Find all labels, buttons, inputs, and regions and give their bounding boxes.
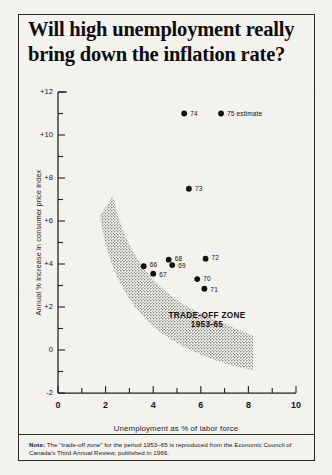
x-tick-label: 10 xyxy=(286,400,306,410)
paper-speck xyxy=(3,137,4,138)
note-text: The "trade-off zone" for the period 1953… xyxy=(29,441,292,456)
paper-speck xyxy=(9,340,10,341)
data-point-label: 75 estimate xyxy=(227,110,262,117)
title-line-1: Will high unemployment really xyxy=(28,18,294,40)
paper-speck xyxy=(0,134,1,135)
y-axis-title: Annual % increase in consumer price inde… xyxy=(34,143,43,343)
paper-speck xyxy=(10,441,11,442)
y-tick-label: -2 xyxy=(31,388,53,397)
paper-speck xyxy=(35,2,36,3)
figure-note: Note: The "trade-off zone" for the perio… xyxy=(29,441,297,458)
paper-speck xyxy=(330,301,331,302)
data-point-label: 70 xyxy=(203,275,211,282)
paper-speck xyxy=(251,5,253,7)
paper-speck xyxy=(14,171,15,172)
data-point-label: 73 xyxy=(195,185,203,192)
x-tick-label: 6 xyxy=(191,400,211,410)
paper-speck xyxy=(4,417,5,418)
paper-speck xyxy=(192,6,193,7)
paper-speck xyxy=(315,136,316,137)
figure-frame xyxy=(18,14,315,461)
trade-off-zone-label: TRADE-OFF ZONE 1953-65 xyxy=(152,311,262,329)
paper-speck xyxy=(3,111,4,112)
paper-speck xyxy=(4,403,6,405)
data-point-label: 68 xyxy=(175,255,183,262)
title-line-2: bring down the inflation rate? xyxy=(28,42,310,67)
y-tick-label: 0 xyxy=(31,345,53,354)
data-point-label: 71 xyxy=(210,286,218,293)
paper-speck xyxy=(93,473,94,474)
paper-speck xyxy=(216,10,218,12)
paper-speck xyxy=(328,149,329,150)
paper-speck xyxy=(16,13,17,14)
data-point-label: 67 xyxy=(159,271,167,278)
x-tick-label: 2 xyxy=(96,400,116,410)
data-point-label: 72 xyxy=(212,254,220,261)
paper-speck xyxy=(0,57,1,58)
x-tick-label: 4 xyxy=(143,400,163,410)
x-tick-label: 0 xyxy=(48,400,68,410)
paper-speck xyxy=(226,468,227,469)
y-tick-label: +10 xyxy=(31,130,53,139)
data-point-label: 69 xyxy=(178,262,186,269)
zone-label-line-1: TRADE-OFF ZONE xyxy=(152,311,262,320)
paper-speck xyxy=(324,122,325,123)
note-divider xyxy=(19,434,314,435)
paper-speck xyxy=(330,20,331,21)
paper-speck xyxy=(327,252,328,253)
data-point-label: 66 xyxy=(150,261,158,268)
note-prefix: Note: xyxy=(29,441,45,448)
data-point-label: 74 xyxy=(190,110,198,117)
y-tick-label: +12 xyxy=(31,87,53,96)
zone-label-line-2: 1953-65 xyxy=(152,320,262,329)
x-tick-label: 8 xyxy=(238,400,258,410)
x-axis-title: Unemployment as % of labor force xyxy=(56,424,296,433)
paper-speck xyxy=(14,104,15,105)
page-title: Will high unemployment really bring down… xyxy=(28,17,310,67)
